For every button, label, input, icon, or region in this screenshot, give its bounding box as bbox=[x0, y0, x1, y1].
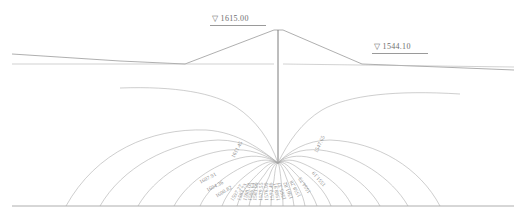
upstream-water-level-label: ▽ 1615.00 bbox=[212, 15, 249, 23]
downstream-water-level-underline bbox=[372, 53, 428, 54]
upper-seepage-curves bbox=[120, 88, 460, 163]
drawing-canvas: ▽ 1615.00 ▽ 1544.10 1611.451607.911604.3… bbox=[0, 0, 527, 219]
downstream-water-level-label: ▽ 1544.10 bbox=[374, 43, 411, 51]
upstream-water-level-underline bbox=[210, 25, 266, 26]
downstream-water-line bbox=[283, 64, 514, 67]
upstream-ground-line bbox=[12, 30, 274, 64]
downstream-slope-line bbox=[283, 30, 362, 64]
seepage-curve-right bbox=[278, 93, 460, 163]
seepage-curve-left bbox=[120, 88, 278, 163]
